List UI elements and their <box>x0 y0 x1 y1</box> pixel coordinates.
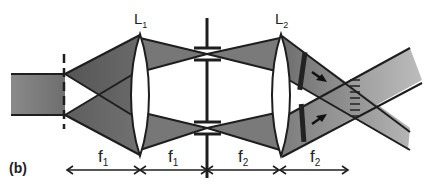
distance-label-f2-left: f2 <box>238 147 248 168</box>
distance-label-f2-right: f2 <box>310 147 320 168</box>
output-beams <box>282 36 422 157</box>
lens-l2-label: L2 <box>275 10 288 30</box>
4f-optical-setup-diagram: L1 L2 f1 f1 f2 f2 (b) <box>0 0 435 189</box>
distance-label-f1-right: f1 <box>168 147 178 168</box>
interference-fringes <box>350 80 360 116</box>
fourier-plane-aperture <box>194 18 221 178</box>
diverging-cones-to-l1 <box>65 35 140 155</box>
panel-label: (b) <box>9 160 27 176</box>
distance-label-f1-left: f1 <box>98 147 108 168</box>
input-beam <box>11 74 65 115</box>
lens-l1-label: L1 <box>134 10 147 30</box>
